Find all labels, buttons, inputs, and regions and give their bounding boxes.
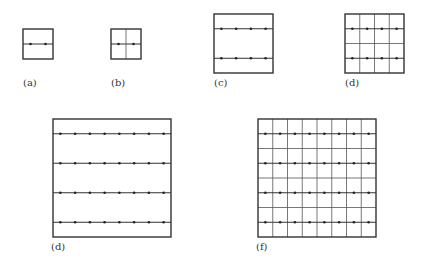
panel-a (23, 29, 53, 59)
sample-point (235, 27, 238, 30)
sample-point (395, 27, 398, 30)
sample-point (220, 57, 223, 60)
sample-point (74, 221, 77, 224)
sample-point (323, 221, 326, 224)
panel-d2 (53, 119, 171, 237)
panel-label-b: (b) (111, 77, 125, 88)
sample-point (264, 57, 267, 60)
sample-point (294, 162, 297, 165)
sample-point (29, 43, 32, 46)
sample-point (148, 191, 151, 194)
sample-point (74, 162, 77, 165)
sample-point (89, 221, 92, 224)
sample-point (338, 162, 341, 165)
sample-point (162, 162, 165, 165)
sample-point (148, 221, 151, 224)
sample-point (366, 57, 369, 60)
sample-point (250, 57, 253, 60)
sample-point (308, 191, 311, 194)
sample-point (323, 132, 326, 135)
sample-point (74, 191, 77, 194)
sample-point (351, 57, 354, 60)
sample-point (353, 191, 356, 194)
sample-point (338, 191, 341, 194)
sample-point (367, 132, 370, 135)
sample-point (264, 132, 267, 135)
sample-point (367, 162, 370, 165)
sample-point (59, 221, 62, 224)
sample-point (162, 221, 165, 224)
sample-point (235, 57, 238, 60)
panel-label-f: (f) (256, 241, 268, 252)
sample-point (133, 162, 136, 165)
sample-point (264, 162, 267, 165)
sample-point (103, 191, 106, 194)
sample-point (117, 43, 120, 46)
sample-point (59, 162, 62, 165)
sample-point (103, 162, 106, 165)
sample-point (264, 27, 267, 30)
sample-point (264, 191, 267, 194)
sample-point (132, 43, 135, 46)
sample-point (381, 27, 384, 30)
sample-point (148, 132, 151, 135)
sample-point (279, 162, 282, 165)
sample-point (133, 221, 136, 224)
sample-point (294, 132, 297, 135)
sample-point (74, 132, 77, 135)
sample-point (294, 221, 297, 224)
sample-point (59, 191, 62, 194)
sample-point (351, 27, 354, 30)
sample-point (279, 221, 282, 224)
sample-point (294, 191, 297, 194)
sample-point (353, 162, 356, 165)
sample-point (118, 162, 121, 165)
sample-point (44, 43, 47, 46)
sample-point (367, 221, 370, 224)
sample-point (308, 132, 311, 135)
sample-point (133, 132, 136, 135)
sample-point (250, 27, 253, 30)
panel-label-d1: (d) (345, 77, 359, 88)
sample-point (59, 132, 62, 135)
sample-point (353, 221, 356, 224)
sample-point (366, 27, 369, 30)
sample-point (338, 221, 341, 224)
sample-point (89, 132, 92, 135)
sample-point (89, 162, 92, 165)
sample-point (367, 191, 370, 194)
sample-point (89, 191, 92, 194)
sample-point (118, 221, 121, 224)
sample-point (264, 221, 267, 224)
panel-b (111, 29, 141, 59)
sample-point (133, 191, 136, 194)
panel-label-c: (c) (214, 77, 227, 88)
panel-c (214, 14, 273, 73)
sample-point (381, 57, 384, 60)
sample-point (353, 132, 356, 135)
panel-frame (53, 119, 171, 237)
panel-f (258, 119, 376, 237)
sample-point (148, 162, 151, 165)
panel-label-a: (a) (23, 77, 37, 88)
sample-point (279, 132, 282, 135)
sample-point (279, 191, 282, 194)
sample-point (162, 132, 165, 135)
sample-point (118, 191, 121, 194)
sample-point (338, 132, 341, 135)
sample-point (118, 132, 121, 135)
sample-point (323, 191, 326, 194)
panel-label-d2: (d) (51, 241, 65, 252)
sample-point (323, 162, 326, 165)
panel-frame (214, 14, 273, 73)
sample-point (103, 132, 106, 135)
panel-d1 (345, 14, 404, 73)
mesh-refinement-figure (0, 0, 421, 262)
sample-point (308, 221, 311, 224)
sample-point (162, 191, 165, 194)
sample-point (308, 162, 311, 165)
sample-point (103, 221, 106, 224)
sample-point (395, 57, 398, 60)
sample-point (220, 27, 223, 30)
